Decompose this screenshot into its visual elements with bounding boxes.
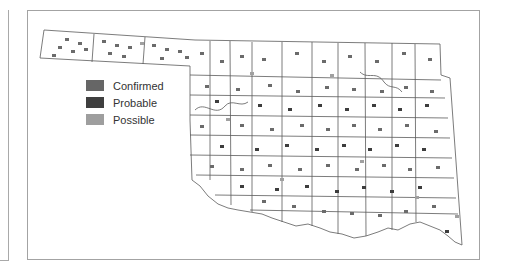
- map-legend: Confirmed Probable Possible: [86, 78, 164, 129]
- legend-item-confirmed: Confirmed: [86, 78, 164, 93]
- possible-swatch: [86, 114, 104, 125]
- legend-label-confirmed: Confirmed: [113, 80, 164, 92]
- legend-item-possible: Possible: [86, 112, 164, 127]
- legend-item-probable: Probable: [86, 95, 164, 110]
- probable-swatch: [86, 97, 104, 108]
- legend-label-probable: Probable: [113, 97, 157, 109]
- legend-label-possible: Possible: [113, 114, 155, 126]
- oklahoma-county-map: [0, 0, 509, 275]
- confirmed-swatch: [86, 80, 104, 91]
